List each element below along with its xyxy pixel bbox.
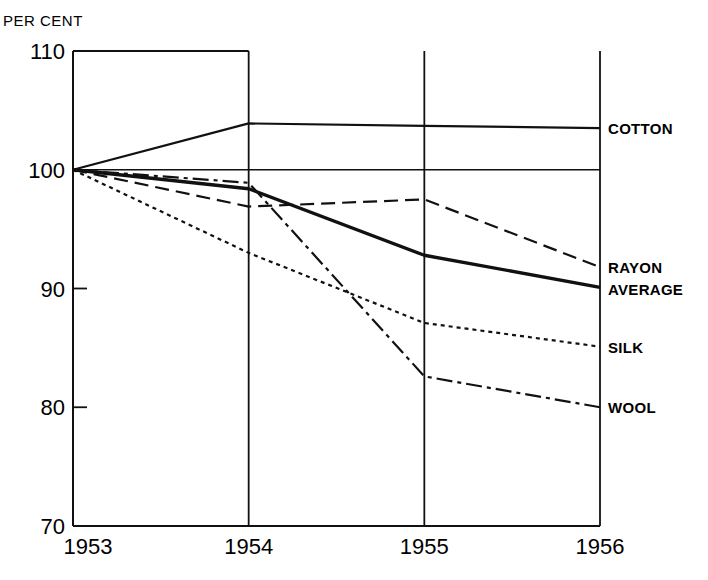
y-axis-title: PER CENT bbox=[3, 12, 83, 29]
y-tick-label: 70 bbox=[41, 514, 65, 539]
series-labels: COTTONRAYONAVERAGESILKWOOL bbox=[608, 120, 683, 416]
line-chart: PER CENT 110100908070 1953195419551956 C… bbox=[0, 0, 708, 580]
series-line-cotton bbox=[73, 123, 600, 169]
y-tick-label: 80 bbox=[41, 395, 65, 420]
series-lines bbox=[73, 123, 600, 407]
series-label-wool: WOOL bbox=[608, 399, 656, 416]
series-label-rayon: RAYON bbox=[608, 259, 662, 276]
y-tick-label: 100 bbox=[28, 158, 65, 183]
y-tick-label: 90 bbox=[41, 277, 65, 302]
series-label-cotton: COTTON bbox=[608, 120, 673, 137]
series-line-silk bbox=[73, 170, 600, 347]
y-tick-label: 110 bbox=[30, 39, 65, 64]
x-tick-label: 1956 bbox=[576, 534, 625, 559]
series-label-average: AVERAGE bbox=[608, 281, 683, 298]
x-axis-ticks: 1953195419551956 bbox=[64, 534, 625, 559]
x-tick-label: 1955 bbox=[400, 534, 449, 559]
series-line-rayon bbox=[73, 170, 600, 267]
x-tick-label: 1953 bbox=[64, 534, 113, 559]
x-tick-label: 1954 bbox=[224, 534, 273, 559]
series-line-average bbox=[73, 170, 600, 288]
series-label-silk: SILK bbox=[608, 339, 643, 356]
y-axis-ticks: 110100908070 bbox=[28, 39, 87, 539]
